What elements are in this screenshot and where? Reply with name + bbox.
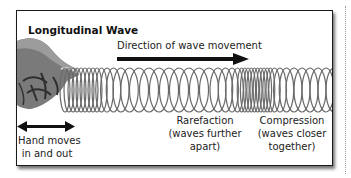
compression-label: Compression (waves closer together) <box>247 114 333 153</box>
rarefaction-label-line-2: (waves further <box>160 127 250 140</box>
rarefaction-label-line-1: Rarefaction <box>160 114 250 127</box>
diagram-frame: Longitudinal Wave Direction of wave move… <box>16 10 333 166</box>
right-arrow-icon <box>117 53 249 65</box>
rarefaction-label-line-3: apart) <box>160 140 250 153</box>
compression-label-line-1: Compression <box>247 114 333 127</box>
rarefaction-label: Rarefaction (waves further apart) <box>160 114 250 153</box>
hand-label-line-1: Hand moves <box>18 134 76 147</box>
spring-coil <box>60 68 332 112</box>
compression-label-line-2: (waves closer <box>247 127 333 140</box>
hand-moves-label: Hand moves in and out <box>18 134 76 160</box>
compression-label-line-3: together) <box>247 140 333 153</box>
diagram-title: Longitudinal Wave <box>28 24 138 36</box>
page-edge-dotted-line <box>345 6 346 174</box>
double-headed-arrow-icon <box>17 121 75 132</box>
hand-label-line-2: in and out <box>18 147 76 160</box>
direction-label: Direction of wave movement <box>117 40 262 51</box>
